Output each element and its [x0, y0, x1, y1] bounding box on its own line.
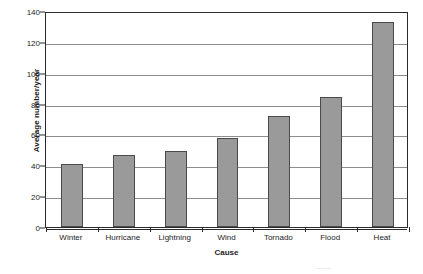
x-tick-mark-origin: [46, 227, 47, 232]
y-tick-mark-20: [40, 197, 45, 198]
y-tick-mark-140: [40, 12, 45, 13]
plot-area: [45, 12, 408, 228]
source-note: .......: [316, 266, 421, 274]
y-tick-label-120: 120: [14, 38, 40, 47]
x-tick-mark-3: [253, 227, 254, 232]
x-tick-label-tornado: Tornado: [264, 233, 293, 242]
bar-lightning: [165, 151, 187, 227]
x-tick-label-heat: Heat: [374, 233, 391, 242]
bar-wind: [217, 138, 239, 227]
bar-heat: [372, 22, 394, 227]
bars-group: [46, 13, 407, 227]
bar-winter: [61, 164, 83, 227]
x-axis-title: Cause: [45, 248, 408, 257]
bar-tornado: [268, 116, 290, 227]
source-note-text: .......: [316, 266, 332, 271]
x-tick-label-lightning: Lightning: [158, 233, 190, 242]
x-tick-mark-6: [409, 227, 410, 232]
y-tick-label-40: 40: [14, 162, 40, 171]
y-tick-mark-60: [40, 135, 45, 136]
y-tick-mark-80: [40, 104, 45, 105]
plot-inner: [46, 13, 407, 227]
x-tick-label-wind: Wind: [217, 233, 235, 242]
x-tick-mark-4: [305, 227, 306, 232]
y-tick-label-60: 60: [14, 131, 40, 140]
y-tick-mark-40: [40, 166, 45, 167]
y-tick-mark-100: [40, 73, 45, 74]
y-tick-label-140: 140: [14, 8, 40, 17]
x-tick-mark-0: [98, 227, 99, 232]
y-tick-label-20: 20: [14, 193, 40, 202]
x-tick-labels-group: WinterHurricaneLightningWindTornadoFlood…: [45, 233, 408, 247]
x-tick-mark-1: [150, 227, 151, 232]
y-tick-label-100: 100: [14, 69, 40, 78]
bar-hurricane: [113, 155, 135, 228]
x-tick-label-flood: Flood: [320, 233, 340, 242]
x-tick-label-hurricane: Hurricane: [105, 233, 140, 242]
x-tick-mark-2: [202, 227, 203, 232]
y-tick-mark-0: [40, 228, 45, 229]
y-tick-label-80: 80: [14, 100, 40, 109]
y-tick-mark-120: [40, 42, 45, 43]
x-tick-label-winter: Winter: [59, 233, 82, 242]
x-tick-mark-5: [357, 227, 358, 232]
gridline-0: [46, 229, 407, 230]
bar-flood: [320, 97, 342, 227]
y-tick-label-0: 0: [14, 224, 40, 233]
bar-chart-figure: Average number/year 020406080100120140 W…: [0, 0, 423, 274]
